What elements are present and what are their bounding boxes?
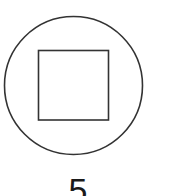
inner-square xyxy=(39,51,109,121)
circle-square-symbol xyxy=(0,0,170,196)
figure-number-label: 5 xyxy=(58,170,98,196)
